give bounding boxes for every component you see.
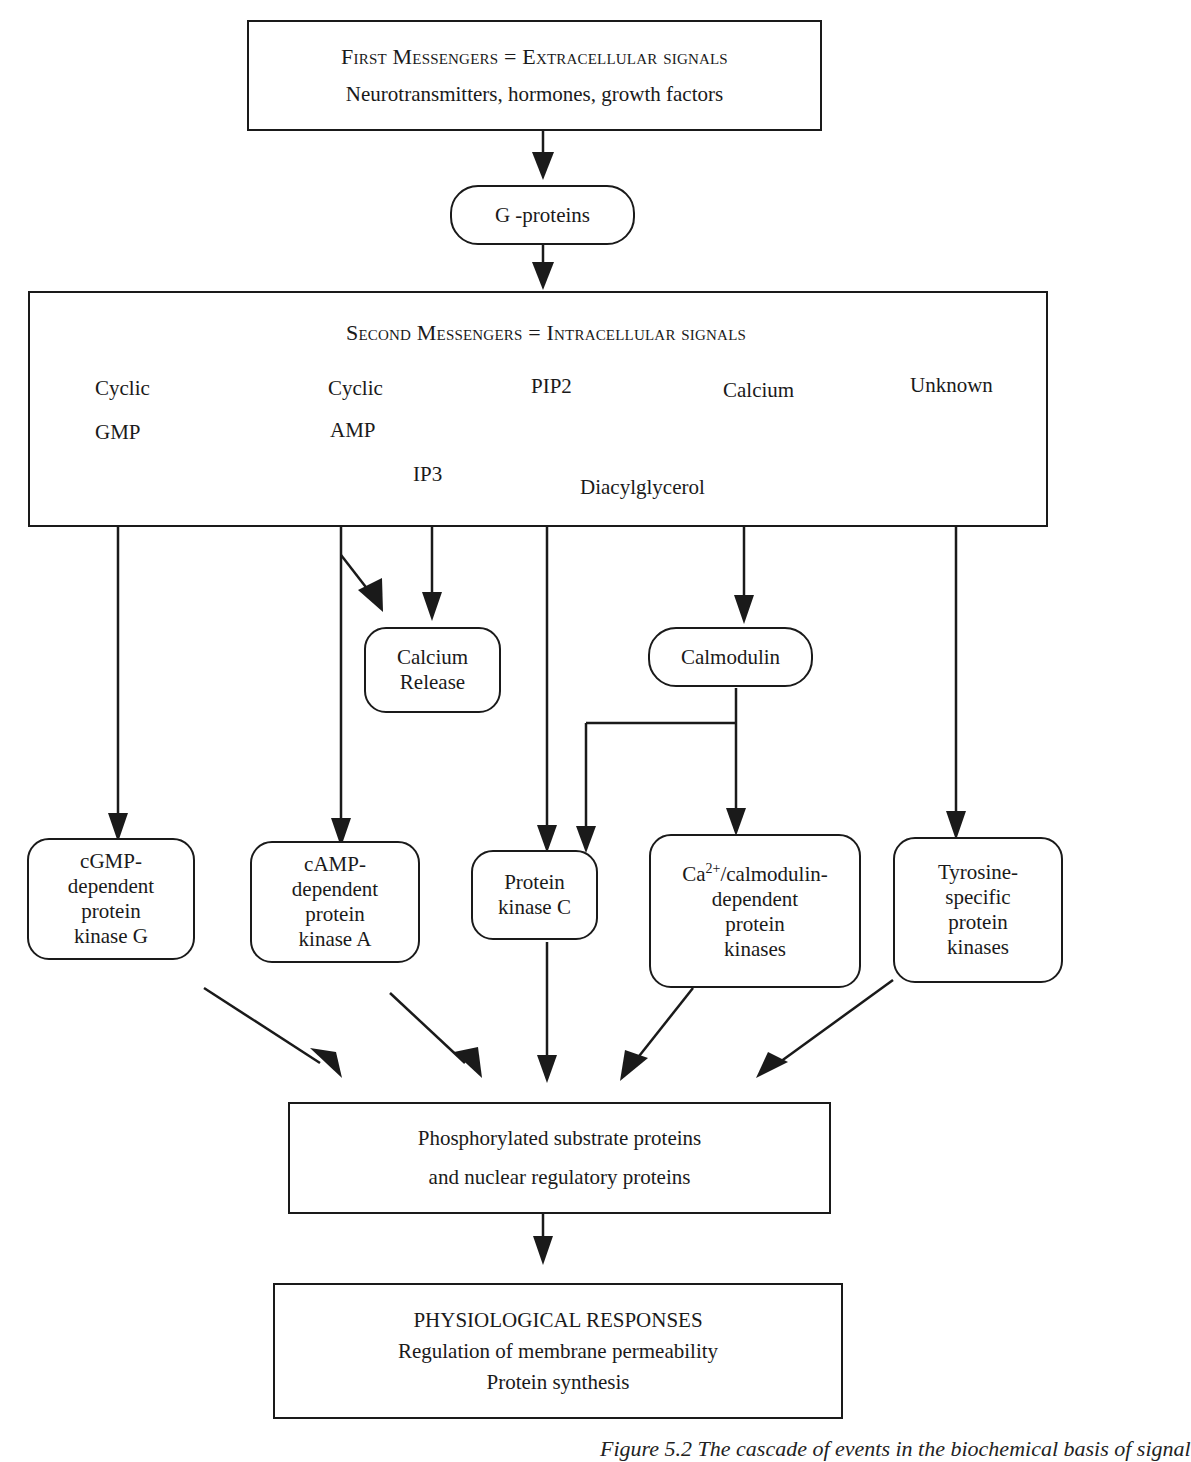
tyrosine-line4: kinases [947,935,1009,960]
camk-superscript: 2+ [706,861,721,876]
g-proteins-label: G -proteins [495,203,590,228]
calcium-release-line1: Calcium [397,645,468,670]
messenger-unknown: Unknown [910,373,993,398]
responses-line2: Protein synthesis [487,1370,630,1395]
kinase-c-node: Protein kinase C [471,850,598,940]
camk-line3: protein [725,912,784,937]
substrates-line1: Phosphorylated substrate proteins [418,1126,701,1151]
tyrosine-kinase-node: Tyrosine- specific protein kinases [893,837,1063,983]
calcium-release-line2: Release [400,670,465,695]
responses-title: PHYSIOLOGICAL RESPONSES [413,1308,702,1333]
kinase-g-line4: kinase G [74,924,148,949]
messenger-calcium: Calcium [723,378,794,403]
camk-node: Ca2+/calmodulin- dependent protein kinas… [649,834,861,988]
tyrosine-line2: specific [945,885,1010,910]
kinase-a-node: cAMP- dependent protein kinase A [250,841,420,963]
messenger-camp-line1: Cyclic [328,376,383,401]
figure-caption: Figure 5.2 The cascade of events in the … [600,1436,1191,1462]
g-proteins-node: G -proteins [450,185,635,245]
messenger-camp-line2: AMP [330,418,376,443]
pip2-product-ip3: IP3 [413,462,442,487]
first-messengers-title: First Messengers = Extracellular signals [341,44,728,70]
kinase-g-line1: cGMP- [80,849,142,874]
calmodulin-label: Calmodulin [681,645,780,670]
kinase-g-line2: dependent [68,874,154,899]
kinase-g-line3: protein [81,899,140,924]
kinase-c-line1: Protein [504,870,565,895]
second-messengers-title: Second Messengers = Intracellular signal… [0,320,1092,346]
messenger-pip2: PIP2 [531,374,572,399]
camk-line1: Ca2+/calmodulin- [682,861,828,887]
first-messengers-subtitle: Neurotransmitters, hormones, growth fact… [346,82,723,107]
physiological-responses-box: PHYSIOLOGICAL RESPONSES Regulation of me… [273,1283,843,1419]
calmodulin-node: Calmodulin [648,627,813,687]
substrates-box: Phosphorylated substrate proteins and nu… [288,1102,831,1214]
kinase-c-line2: kinase C [498,895,571,920]
camk-rest: /calmodulin- [720,862,827,886]
kinase-a-line3: protein [305,902,364,927]
kinase-a-line4: kinase A [299,927,372,952]
responses-line1: Regulation of membrane permeability [398,1339,718,1364]
kinase-a-line2: dependent [292,877,378,902]
first-messengers-box: First Messengers = Extracellular signals… [247,20,822,131]
calcium-release-node: Calcium Release [364,627,501,713]
camk-line4: kinases [724,937,786,962]
tyrosine-line3: protein [948,910,1007,935]
pip2-product-diacylglycerol: Diacylglycerol [580,475,705,500]
messenger-cgmp-line1: Cyclic [95,376,150,401]
camk-line2: dependent [712,887,798,912]
messenger-cgmp-line2: GMP [95,420,141,445]
tyrosine-line1: Tyrosine- [938,860,1018,885]
kinase-a-line1: cAMP- [304,852,366,877]
camk-ca: Ca [682,862,705,886]
kinase-g-node: cGMP- dependent protein kinase G [27,838,195,960]
substrates-line2: and nuclear regulatory proteins [429,1165,691,1190]
